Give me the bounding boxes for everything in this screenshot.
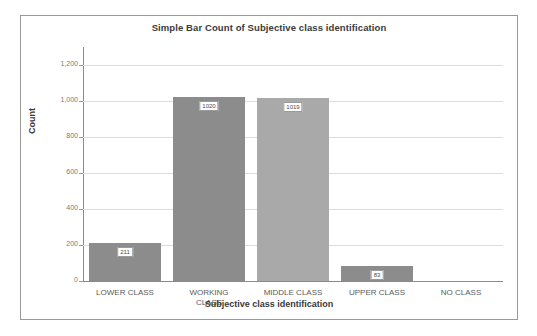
y-tick-label: 1,000 <box>60 96 78 103</box>
plot-inner: 02004006008001,0001,200 2111020101983 LO… <box>83 47 503 282</box>
y-tick-mark <box>79 101 83 102</box>
bar-value-label: 211 <box>117 247 133 257</box>
y-tick-mark <box>79 65 83 66</box>
bar[interactable]: 83 <box>341 266 413 281</box>
y-axis-line <box>83 47 84 282</box>
y-tick-mark <box>79 209 83 210</box>
gridline <box>83 65 503 66</box>
x-axis-title: Subjective class identification <box>21 299 517 309</box>
x-category-label: NO CLASS <box>441 288 481 298</box>
y-tick-label: 800 <box>66 132 78 139</box>
x-axis-line <box>83 281 503 282</box>
y-tick-mark <box>79 245 83 246</box>
y-tick-mark <box>79 281 83 282</box>
y-tick-mark <box>79 173 83 174</box>
y-tick-mark <box>79 137 83 138</box>
bar-value-label: 83 <box>371 270 384 280</box>
plot-area: 02004006008001,0001,200 2111020101983 LO… <box>83 47 503 282</box>
x-category-label: MIDDLE CLASS <box>264 288 323 298</box>
chart-title: Simple Bar Count of Subjective class ide… <box>21 22 517 33</box>
y-tick-label: 1,200 <box>60 60 78 67</box>
x-category-label: LOWER CLASS <box>96 288 154 298</box>
bar-value-label: 1020 <box>199 101 218 111</box>
y-tick-label: 200 <box>66 240 78 247</box>
y-axis-title: Count <box>27 108 37 134</box>
bar-value-label: 1019 <box>283 102 302 112</box>
y-tick-label: 0 <box>74 276 78 283</box>
bar[interactable]: 1019 <box>257 98 329 281</box>
y-tick-label: 400 <box>66 204 78 211</box>
y-tick-label: 600 <box>66 168 78 175</box>
bar[interactable]: 1020 <box>173 97 245 281</box>
bar[interactable]: 211 <box>89 243 161 281</box>
chart-frame: Simple Bar Count of Subjective class ide… <box>20 15 518 320</box>
x-category-label: UPPER CLASS <box>349 288 405 298</box>
